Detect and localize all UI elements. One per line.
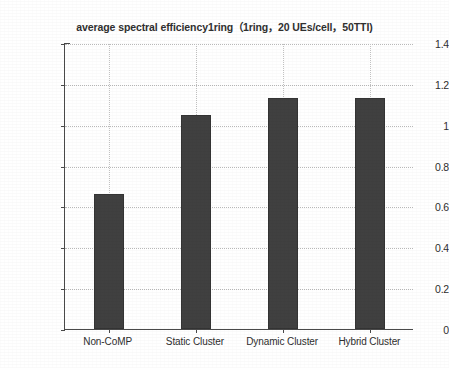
y-tick-label: 1.4 — [394, 38, 449, 50]
plot-area — [64, 44, 413, 330]
bar — [268, 98, 298, 329]
gridline-horizontal — [65, 85, 413, 86]
x-tick-label: Static Cluster — [166, 336, 224, 347]
chart-figure: average spectral efficiency1ring（1ring，2… — [0, 0, 449, 368]
y-tick-label: 1 — [394, 120, 449, 132]
y-tick-label: 0.6 — [394, 201, 449, 213]
y-tick-label: 0 — [394, 324, 449, 336]
x-tick-label: Non-CoMP — [83, 336, 132, 347]
x-tick-mark — [283, 329, 284, 333]
chart-title: average spectral efficiency1ring（1ring，2… — [0, 19, 449, 34]
x-tick-mark — [196, 329, 197, 333]
bar — [181, 115, 211, 330]
gridline-horizontal — [65, 44, 413, 45]
y-tick-label: 0.2 — [394, 283, 449, 295]
x-tick-mark — [109, 329, 110, 333]
y-axis-label-wrap: average spectral efficiency (bit/cu) — [0, 0, 64, 368]
y-tick-label: 0.4 — [394, 242, 449, 254]
x-tick-mark — [370, 329, 371, 333]
bar — [355, 98, 385, 329]
y-tick-label: 1.2 — [394, 79, 449, 91]
y-tick-label: 0.8 — [394, 161, 449, 173]
bar — [94, 194, 124, 329]
x-tick-label: Dynamic Cluster — [246, 336, 318, 347]
x-tick-label: Hybrid Cluster — [338, 336, 400, 347]
